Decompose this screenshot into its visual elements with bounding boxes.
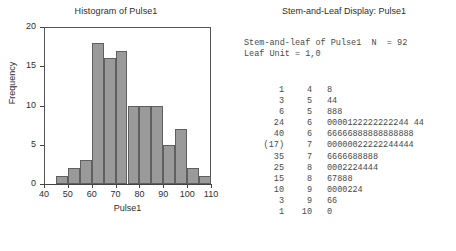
stem-and-leaf-rows: 1483544658882460000122222222244 44406666… xyxy=(244,85,424,218)
y-tick-mark xyxy=(40,106,44,107)
stem-and-leaf-row: 3544 xyxy=(244,96,424,107)
y-tick-mark xyxy=(40,145,44,146)
stem-and-leaf-stem: 10 xyxy=(284,207,312,218)
histogram-bar xyxy=(68,168,80,184)
stem-and-leaf-stem: 7 xyxy=(284,140,312,151)
stem-and-leaf-stem: 5 xyxy=(284,107,312,118)
stem-and-leaf-count: 1 xyxy=(244,207,284,218)
histogram-bar xyxy=(151,106,163,185)
stem-and-leaf-stem: 6 xyxy=(284,118,312,129)
histogram-bar xyxy=(175,129,187,184)
stem-and-leaf-row: 1090000224 xyxy=(244,185,424,196)
stem-and-leaf-leaves: 6666688888 xyxy=(312,152,378,163)
x-tick-mark xyxy=(163,184,164,188)
stem-and-leaf-stem: 7 xyxy=(284,152,312,163)
y-axis-title: Frequency xyxy=(7,38,17,128)
stem-and-leaf-count: 25 xyxy=(244,163,284,174)
x-tick-mark xyxy=(187,184,188,188)
stem-and-leaf-header-line2: Leaf Unit = 1,0 xyxy=(244,49,321,59)
x-tick-mark xyxy=(116,184,117,188)
stem-and-leaf-row: 15867888 xyxy=(244,174,424,185)
stem-and-leaf-stem: 8 xyxy=(284,174,312,185)
stem-and-leaf-row: 65888 xyxy=(244,107,424,118)
stem-and-leaf-leaves: 66 xyxy=(312,196,337,207)
stem-and-leaf-count: 24 xyxy=(244,118,284,129)
histogram-bar xyxy=(163,145,175,184)
stem-and-leaf-panel: Stem-and-Leaf Display: Pulse1 Stem-and-l… xyxy=(232,0,456,251)
x-tick-label: 110 xyxy=(196,189,226,199)
stem-and-leaf-stem: 4 xyxy=(284,85,312,96)
stem-and-leaf-stem: 5 xyxy=(284,96,312,107)
histogram-bar xyxy=(56,176,68,184)
stem-and-leaf-count: 3 xyxy=(244,196,284,207)
x-tick-mark xyxy=(92,184,93,188)
stem-and-leaf-leaves: 00000022222244444 xyxy=(312,140,414,151)
y-tick-mark xyxy=(40,27,44,28)
stem-and-leaf-leaves: 67888 xyxy=(312,174,353,185)
histogram-title: Histogram of Pulse1 xyxy=(0,6,232,16)
stem-and-leaf-leaves: 0000122222222244 44 xyxy=(312,118,424,129)
stem-and-leaf-title: Stem-and-Leaf Display: Pulse1 xyxy=(232,6,456,16)
stem-and-leaf-count: 15 xyxy=(244,174,284,185)
x-axis-title: Pulse1 xyxy=(44,203,211,213)
stem-and-leaf-stem: 8 xyxy=(284,163,312,174)
histogram-bar xyxy=(128,106,140,185)
stem-and-leaf-stem: 6 xyxy=(284,129,312,140)
stem-and-leaf-row: 3966 xyxy=(244,196,424,207)
histogram-bar xyxy=(104,58,116,184)
stem-and-leaf-count: 10 xyxy=(244,185,284,196)
y-tick-label: 20 xyxy=(8,21,36,31)
stem-and-leaf-count: 40 xyxy=(244,129,284,140)
stem-and-leaf-leaves: 0002224444 xyxy=(312,163,378,174)
stem-and-leaf-leaves: 8 xyxy=(312,85,332,96)
stem-and-leaf-count: (17) xyxy=(244,140,284,151)
histogram-panel: Histogram of Pulse1 05101520 40506070809… xyxy=(0,0,232,251)
stem-and-leaf-count: 1 xyxy=(244,85,284,96)
x-tick-mark xyxy=(139,184,140,188)
x-axis-line xyxy=(44,184,211,185)
stem-and-leaf-stem: 9 xyxy=(284,185,312,196)
histogram-bars xyxy=(44,27,211,184)
y-tick-label: 5 xyxy=(8,139,36,149)
stem-and-leaf-leaves: 0 xyxy=(312,207,332,218)
stem-and-leaf-row: 148 xyxy=(244,85,424,96)
stem-and-leaf-row: (17)700000022222244444 xyxy=(244,140,424,151)
stem-and-leaf-leaves: 888 xyxy=(312,107,342,118)
stem-and-leaf-leaves: 44 xyxy=(312,96,337,107)
histogram-bar xyxy=(80,160,92,184)
histogram-bar xyxy=(116,51,128,184)
histogram-bar xyxy=(139,106,151,185)
histogram-bar xyxy=(92,43,104,184)
x-tick-mark xyxy=(211,184,212,188)
y-tick-mark xyxy=(40,66,44,67)
stem-and-leaf-header-line1: Stem-and-leaf of Pulse1 N = 92 xyxy=(244,38,407,48)
stem-and-leaf-row: 3576666688888 xyxy=(244,152,424,163)
x-tick-mark xyxy=(68,184,69,188)
y-tick-label: 0 xyxy=(8,178,36,188)
stem-and-leaf-header: Stem-and-leaf of Pulse1 N = 92 Leaf Unit… xyxy=(244,38,407,60)
stem-and-leaf-row: 2460000122222222244 44 xyxy=(244,118,424,129)
x-tick-mark xyxy=(44,184,45,188)
histogram-bar xyxy=(187,168,199,184)
stem-and-leaf-row: 40666666888888888888 xyxy=(244,129,424,140)
stem-and-leaf-row: 1100 xyxy=(244,207,424,218)
stem-and-leaf-count: 6 xyxy=(244,107,284,118)
stem-and-leaf-count: 35 xyxy=(244,152,284,163)
stem-and-leaf-count: 3 xyxy=(244,96,284,107)
histogram-bar xyxy=(199,176,211,184)
stem-and-leaf-stem: 9 xyxy=(284,196,312,207)
stem-and-leaf-row: 2580002224444 xyxy=(244,163,424,174)
stem-and-leaf-leaves: 66666888888888888 xyxy=(312,129,414,140)
stem-and-leaf-leaves: 0000224 xyxy=(312,185,363,196)
